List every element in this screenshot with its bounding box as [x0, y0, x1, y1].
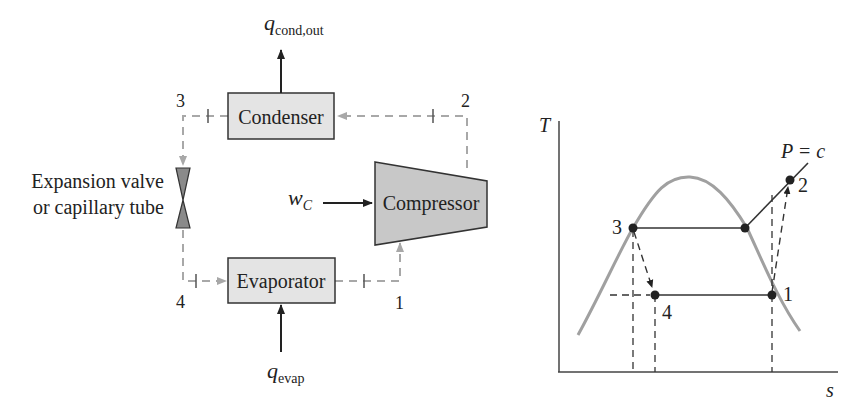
state-2-label: 2 [461, 91, 470, 111]
line-evaporator-to-compressor [335, 243, 400, 281]
condenser-box: Condenser [228, 93, 334, 139]
projection-lines [610, 195, 772, 372]
w-c-label: wC [288, 185, 313, 213]
capillary-tube-label: or capillary tube [33, 196, 164, 219]
q-cond-out-label: qcond,out [264, 10, 324, 38]
point-2 [786, 176, 795, 185]
t-axis-label: T [539, 114, 552, 136]
line-2-to-condenser [338, 116, 467, 168]
point-4 [651, 291, 660, 300]
compression-1-2 [772, 187, 788, 292]
s-axis-label: s [826, 379, 834, 401]
cycle-schematic: Condenser qcond,out Compressor wC Expans… [31, 10, 487, 386]
expansion-valve-label: Expansion valve [31, 170, 164, 193]
ts-state-2-label: 2 [798, 174, 808, 196]
point-sat-vapor [741, 224, 750, 233]
ts-state-1-label: 1 [783, 283, 793, 305]
compressor-label: Compressor [383, 192, 480, 215]
state-1-label: 1 [395, 293, 404, 313]
q-evap-label: qevap [267, 358, 304, 386]
expansion-valve-icon [176, 168, 190, 228]
line-condenser-to-valve [183, 116, 228, 165]
ts-state-4-label: 4 [662, 301, 672, 323]
throttle-3-4 [634, 232, 652, 287]
point-1 [768, 291, 777, 300]
evaporator-box: Evaporator [228, 258, 335, 303]
evaporator-label: Evaporator [237, 270, 326, 293]
ts-state-3-label: 3 [612, 216, 622, 238]
state-4-label: 4 [176, 292, 185, 312]
state-points [629, 176, 795, 300]
irreversible-processes [634, 187, 788, 292]
point-3 [629, 224, 638, 233]
ts-diagram: T s 3 [539, 114, 838, 401]
line-valve-to-evaporator [183, 230, 226, 281]
refrigeration-cycle-figure: Condenser qcond,out Compressor wC Expans… [0, 0, 862, 416]
isobar-label: P = c [780, 140, 825, 162]
compressor-shape: Compressor [375, 162, 487, 245]
saturation-dome [578, 177, 800, 335]
state-3-label: 3 [176, 91, 185, 111]
condenser-label: Condenser [238, 106, 324, 128]
